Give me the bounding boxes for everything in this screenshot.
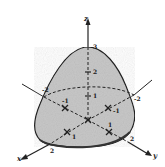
y-neg-1-label: -1 [113, 108, 120, 114]
y-pos-1-label: 1 [108, 122, 112, 128]
y-axis-label: y [153, 152, 157, 159]
x-neg-2-label: -2 [42, 87, 49, 93]
x-axis-front [24, 144, 50, 158]
z-tick-2: 2 [93, 69, 97, 75]
x-pos-2-label: 2 [50, 148, 54, 154]
x-axis-arrow-icon [20, 154, 28, 160]
paraboloid-diagram: z 3 2 1 -2 -1 -2 -1 1 1 2 2 x y [0, 0, 165, 167]
y-neg-2-label: -2 [134, 96, 141, 102]
x-pos-1-label: 1 [72, 134, 76, 140]
z-axis-label: z [84, 15, 88, 22]
x-axis-back [22, 84, 44, 97]
z-tick-1: 1 [93, 93, 97, 99]
paraboloid-surface [35, 47, 135, 147]
y-axis-back [134, 80, 152, 95]
x-neg-1-label: -1 [62, 98, 69, 104]
x-axis-label: x [17, 155, 21, 162]
z-tick-3: 3 [93, 44, 97, 50]
paraboloid-svg [0, 0, 165, 167]
y-axis-front [128, 142, 148, 154]
y-pos-2-label: 2 [130, 136, 134, 142]
